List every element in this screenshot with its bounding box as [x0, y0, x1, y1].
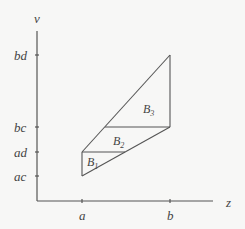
- region-label-b2: B2: [113, 134, 124, 150]
- x-tick-label-b: b: [167, 208, 174, 223]
- y-tick-label-bd: bd: [14, 48, 28, 63]
- y-tick-label-bc: bc: [14, 120, 27, 135]
- region-label-b1: B1: [87, 155, 98, 171]
- x-tick-label-a: a: [79, 208, 86, 223]
- y-tick-label-ac: ac: [14, 169, 27, 184]
- region-label-b3: B3: [143, 102, 154, 118]
- y-tick-label-ad: ad: [14, 145, 28, 160]
- upper-diagonal: [82, 55, 170, 152]
- diagram-canvas: v z bd bc ad ac a b B1 B2 B3: [0, 0, 245, 229]
- x-axis-label: z: [225, 195, 231, 210]
- y-axis-label: v: [34, 11, 40, 26]
